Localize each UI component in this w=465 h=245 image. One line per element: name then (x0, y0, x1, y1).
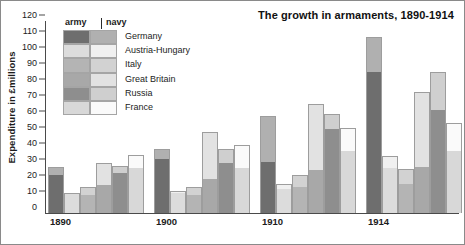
bar-segment-army (293, 187, 307, 213)
bar-segment-navy (431, 73, 445, 111)
y-axis: 0102030405060708090100110120 (19, 15, 45, 215)
chart-frame: Expenditure in £millions 010203040506070… (0, 0, 465, 245)
y-tick-label: 70 (17, 90, 37, 100)
bar-segment-navy (341, 129, 355, 152)
bar-segment-army (81, 195, 95, 213)
y-tick-label: 0 (17, 202, 37, 212)
bar-1910-austria-hungary (276, 184, 292, 213)
legend-label: Austria-Hungary (125, 45, 190, 55)
legend-label: Great Britain (125, 74, 176, 84)
y-tick-label: 80 (17, 74, 37, 84)
legend-label: Italy (125, 59, 142, 69)
bar-1914-great-britain (414, 92, 430, 213)
y-tick-label: 40 (17, 138, 37, 148)
bar-1910-france (340, 128, 356, 213)
legend-swatch-army (63, 101, 90, 115)
bar-1914-italy (398, 169, 414, 213)
bar-segment-navy (219, 150, 233, 164)
x-axis-line (45, 213, 459, 214)
bar-segment-navy (97, 164, 111, 186)
bar-1900-germany (154, 149, 170, 213)
bar-segment-army (399, 184, 413, 213)
bar-segment-army (325, 129, 339, 213)
bar-segment-army (65, 194, 79, 213)
bar-segment-army (431, 110, 445, 213)
bar-1900-austria-hungary (170, 191, 186, 213)
bar-1890-germany (48, 167, 64, 213)
bar-1900-russia (218, 149, 234, 213)
legend-label: France (125, 102, 153, 112)
legend-swatch-army (63, 58, 90, 72)
legend-swatch-army (63, 44, 90, 58)
bar-1900-france (234, 145, 250, 213)
bar-segment-army (235, 168, 249, 213)
bar-1910-great-britain (308, 104, 324, 213)
y-tick-label: 120 (17, 10, 37, 20)
bar-segment-army (261, 162, 275, 213)
bar-1900-italy (186, 187, 202, 213)
legend-swatch-navy (90, 73, 117, 87)
y-tick-label: 110 (17, 26, 37, 36)
y-tick-label: 10 (17, 186, 37, 196)
bar-segment-navy (235, 146, 249, 169)
bar-1890-italy (80, 187, 96, 213)
bar-1890-great-britain (96, 163, 112, 213)
legend-label: Germany (125, 31, 162, 41)
bar-1914-france (446, 123, 462, 213)
y-tick-label: 50 (17, 122, 37, 132)
bar-segment-army (219, 163, 233, 213)
legend-swatch-army (63, 73, 90, 87)
bar-1910-italy (292, 175, 308, 213)
bar-segment-army (97, 185, 111, 213)
bar-segment-navy (415, 93, 429, 167)
bar-1914-russia (430, 72, 446, 213)
bar-group-1910 (260, 21, 356, 213)
y-tick-mark (39, 15, 45, 16)
bar-segment-army (277, 189, 291, 213)
legend-swatch-army (63, 87, 90, 101)
chart-title: The growth in armaments, 1890-1914 (258, 9, 454, 21)
x-tick-label-1910: 1910 (262, 216, 283, 227)
y-tick-label: 60 (17, 106, 37, 116)
bar-segment-navy (261, 117, 275, 163)
bar-1910-germany (260, 116, 276, 213)
bar-segment-navy (399, 170, 413, 185)
bar-segment-army (341, 151, 355, 213)
bar-segment-army (203, 179, 217, 213)
legend-swatch-navy (90, 58, 117, 72)
x-tick-label-1890: 1890 (50, 216, 71, 227)
y-tick-label: 100 (17, 42, 37, 52)
bar-segment-army (113, 173, 127, 213)
bar-segment-navy (203, 133, 217, 180)
y-tick-label: 30 (17, 154, 37, 164)
legend-label: Russia (125, 88, 153, 98)
legend-swatch-navy (90, 87, 117, 101)
legend-swatch-navy (90, 44, 117, 58)
bar-segment-navy (447, 124, 461, 152)
bar-1900-great-britain (202, 132, 218, 213)
legend-swatch-navy (90, 101, 117, 115)
bar-segment-army (155, 159, 169, 213)
bar-segment-army (309, 170, 323, 213)
bar-1914-germany (366, 37, 382, 213)
bar-1910-russia (324, 114, 340, 213)
x-tick-label-1900: 1900 (156, 216, 177, 227)
legend-swatch-army (63, 30, 90, 44)
bar-segment-army (415, 167, 429, 213)
bar-segment-navy (367, 38, 381, 73)
legend-header-navy: navy (106, 17, 127, 27)
bar-group-1914 (366, 21, 462, 213)
bar-segment-army (187, 195, 201, 213)
bar-segment-army (447, 151, 461, 213)
y-tick-label: 90 (17, 58, 37, 68)
legend-divider (101, 18, 102, 29)
x-tick-label-1914: 1914 (368, 216, 389, 227)
bar-segment-army (129, 168, 143, 213)
bar-segment-army (171, 193, 185, 213)
bar-segment-navy (325, 115, 339, 130)
y-tick-label: 20 (17, 170, 37, 180)
bar-segment-army (367, 72, 381, 213)
bar-segment-army (383, 168, 397, 213)
bar-segment-navy (309, 105, 323, 171)
bar-1890-france (128, 155, 144, 213)
